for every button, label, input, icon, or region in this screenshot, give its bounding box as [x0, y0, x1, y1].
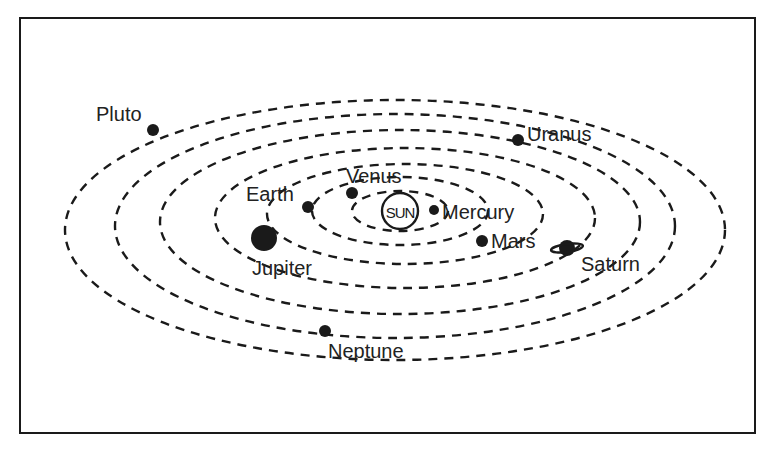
- label-jupiter: Jupiter: [252, 258, 312, 278]
- pluto-planet-icon: [147, 124, 159, 136]
- label-neptune: Neptune: [328, 341, 404, 361]
- sun-icon: SUN: [382, 193, 418, 229]
- svg-text:SUN: SUN: [386, 204, 415, 221]
- orbit-canvas: SUN: [0, 0, 779, 454]
- label-mercury: Mercury: [442, 202, 514, 222]
- neptune-planet-icon: [319, 325, 331, 337]
- label-saturn: Saturn: [581, 254, 640, 274]
- label-venus: Venus: [346, 166, 402, 186]
- earth-planet-icon: [302, 201, 314, 213]
- orbit-paths: [65, 100, 725, 360]
- mars-planet-icon: [476, 235, 488, 247]
- label-earth: Earth: [246, 184, 294, 204]
- label-mars: Mars: [491, 231, 535, 251]
- label-pluto: Pluto: [96, 104, 142, 124]
- mercury-planet-icon: [429, 205, 439, 215]
- orbit-7: [65, 100, 725, 360]
- uranus-planet-icon: [512, 134, 524, 146]
- label-uranus: Uranus: [527, 124, 591, 144]
- venus-planet-icon: [346, 187, 358, 199]
- jupiter-planet-icon: [251, 225, 277, 251]
- solar-system-diagram: SUN Pluto Uranus Venus Earth Mercury Mar…: [0, 0, 779, 454]
